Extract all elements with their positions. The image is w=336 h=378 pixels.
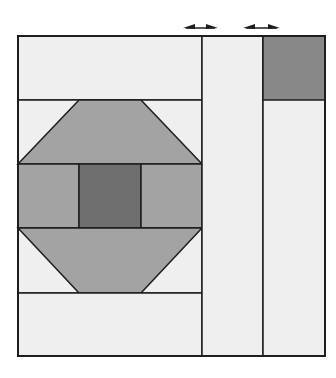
quilt-block-diagram <box>0 0 336 378</box>
center-square <box>79 164 141 228</box>
double-arrow-icon <box>243 24 280 29</box>
corner-square <box>263 36 325 100</box>
sashing-strip-1 <box>202 36 263 356</box>
bottom-strip <box>18 293 202 356</box>
middle-left <box>18 164 79 228</box>
double-arrow-icon <box>183 24 218 29</box>
middle-right <box>141 164 202 228</box>
top-strip <box>18 36 202 100</box>
